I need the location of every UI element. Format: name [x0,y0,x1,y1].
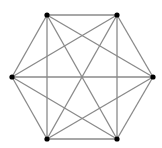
edge-bottom-left-left [12,77,47,139]
node-right [150,74,155,79]
node-top-right [114,12,119,17]
edge-top-left-left [12,15,47,77]
node-bottom-left [44,136,49,141]
node-bottom-right [114,136,119,141]
node-top-left [44,12,49,17]
node-left [9,74,14,79]
complete-graph-diagram [0,0,162,148]
graph-edges [12,15,153,139]
edge-top-right-right [117,15,153,77]
edge-right-bottom-right [117,77,153,139]
